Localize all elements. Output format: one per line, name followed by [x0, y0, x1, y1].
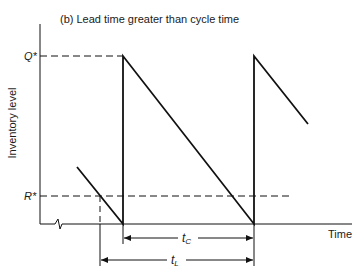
x-axis-with-break [40, 219, 352, 229]
y-axis-label: Inventory level [6, 88, 18, 159]
inventory-diagram: (b) Lead time greater than cycle time In… [0, 0, 363, 276]
cycle-time-label: tC [182, 231, 191, 246]
r-star-label: R* [24, 190, 37, 202]
q-star-label: Q* [24, 50, 38, 62]
x-axis-label: Time [328, 228, 352, 240]
lead-time-label: tL [171, 253, 179, 268]
diagram-title: (b) Lead time greater than cycle time [60, 13, 239, 25]
inventory-sawtooth-line [77, 56, 308, 224]
